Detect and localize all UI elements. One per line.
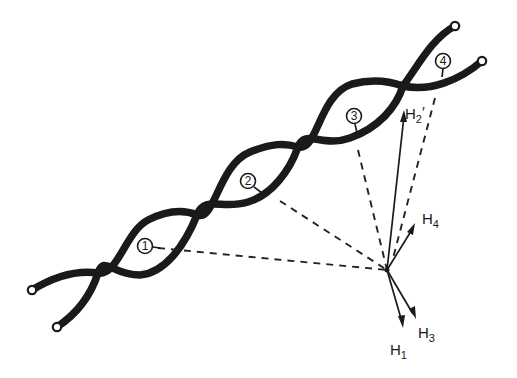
vector-h1	[387, 270, 402, 322]
site-label-3: 3	[347, 109, 362, 134]
helix-vector-diagram: 1 2 3 4 H2′ H4 H3 H1	[0, 0, 517, 378]
label-h2p: H2′	[405, 103, 425, 125]
site-label-1: 1	[138, 239, 161, 254]
dash-site-1	[158, 248, 387, 270]
vectors	[385, 110, 417, 328]
dash-site-2	[280, 201, 387, 270]
dashed-connectors	[158, 98, 435, 270]
svg-text:1: 1	[142, 239, 149, 253]
site-label-4: 4	[436, 54, 451, 78]
terminal-right-upper	[451, 22, 459, 30]
svg-text:3: 3	[351, 109, 358, 123]
label-h3: H3	[418, 324, 435, 344]
arrowhead-h1	[398, 315, 405, 328]
arrowhead-h4	[407, 223, 415, 235]
dash-site-4	[392, 98, 435, 262]
focal-point	[385, 268, 390, 273]
label-h4: H4	[422, 210, 439, 230]
terminal-left-lower	[53, 323, 61, 331]
strand-a	[32, 26, 455, 290]
dash-site-3	[358, 150, 387, 270]
vector-h3	[387, 270, 413, 314]
site-label-2: 2	[241, 174, 263, 194]
terminal-right-lower	[478, 57, 486, 65]
label-h1: H1	[390, 341, 407, 361]
terminal-left-upper	[28, 286, 36, 294]
svg-text:2: 2	[245, 174, 252, 188]
svg-text:4: 4	[440, 54, 447, 68]
strand-b	[57, 61, 482, 327]
